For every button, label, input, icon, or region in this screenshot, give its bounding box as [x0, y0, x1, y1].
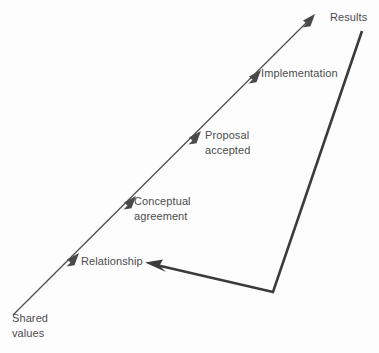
results-arrowhead-icon: [303, 14, 316, 28]
node-label-conceptual-agreement: Conceptual agreement: [134, 194, 191, 223]
relationship-line-1: Relationship: [81, 255, 143, 267]
results-line-1: Results: [330, 11, 367, 23]
proposal-accepted-line-1: Proposal: [205, 129, 249, 141]
conceptual-agreement-line-2: agreement: [134, 209, 191, 224]
shared-values-line-2: values: [12, 326, 48, 341]
node-label-shared-values: Shared values: [12, 311, 48, 340]
proposal-accepted-line-2: accepted: [205, 143, 250, 158]
node-label-proposal-accepted: Proposal accepted: [205, 128, 250, 157]
node-label-relationship: Relationship: [81, 254, 143, 269]
implementation-arrowhead-icon: [249, 70, 262, 84]
diagram-graphic: [0, 0, 379, 353]
shared-values-line-1: Shared: [12, 312, 48, 324]
node-label-implementation: Implementation: [261, 66, 338, 81]
conceptual-agreement-line-1: Conceptual: [134, 195, 191, 207]
diagram-canvas: Shared values Relationship Conceptual ag…: [0, 0, 379, 353]
main-progression-line: [13, 19, 310, 315]
implementation-line-1: Implementation: [261, 67, 338, 79]
node-label-results: Results: [330, 10, 367, 25]
